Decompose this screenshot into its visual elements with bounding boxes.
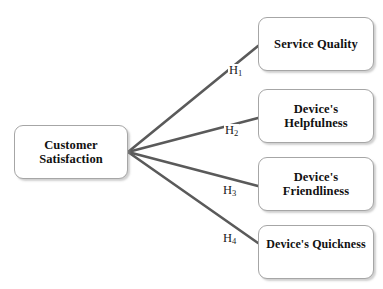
edge-label-h3: H3: [222, 184, 237, 198]
node-devices-quickness[interactable]: Device's Quickness: [258, 225, 374, 279]
edge-label-h2-subscript: 2: [234, 128, 238, 138]
edge-label-h3-subscript: 3: [232, 188, 236, 198]
edge-h3-line: [128, 152, 258, 186]
node-devices-friendliness-label: Device's Friendliness: [283, 170, 349, 198]
edge-label-h3-letter: H: [223, 183, 232, 197]
node-devices-quickness-label: Device's Quickness: [266, 237, 365, 251]
edge-label-h4-letter: H: [223, 231, 232, 245]
diagram-canvas: Customer Satisfaction Service Quality De…: [0, 0, 383, 289]
node-customer-satisfaction-label: Customer Satisfaction: [39, 138, 103, 166]
edge-label-h4-subscript: 4: [232, 236, 236, 246]
edge-label-h1: H1: [228, 64, 243, 78]
edge-label-h4: H4: [222, 232, 237, 246]
edge-h4-line: [128, 152, 258, 243]
node-service-quality[interactable]: Service Quality: [258, 17, 374, 71]
edge-label-h1-letter: H: [229, 63, 238, 77]
node-service-quality-label: Service Quality: [274, 37, 358, 51]
edge-label-h2-letter: H: [225, 123, 234, 137]
edge-label-h2: H2: [224, 124, 239, 138]
node-customer-satisfaction[interactable]: Customer Satisfaction: [14, 125, 128, 179]
edge-label-h1-subscript: 1: [238, 68, 242, 78]
node-devices-helpfulness-label: Device's Helpfulness: [284, 102, 348, 130]
node-devices-friendliness[interactable]: Device's Friendliness: [258, 157, 374, 211]
node-devices-helpfulness[interactable]: Device's Helpfulness: [258, 89, 374, 143]
